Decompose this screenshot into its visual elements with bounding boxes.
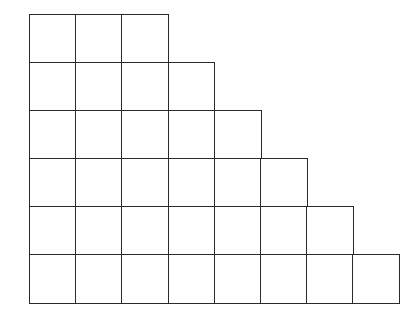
grid-cell	[168, 158, 216, 208]
grid-cell	[121, 62, 169, 112]
grid-cell	[214, 206, 262, 256]
grid-cell	[260, 158, 308, 208]
staircase-grid-diagram	[0, 0, 415, 313]
grid-cell	[214, 158, 262, 208]
grid-cell	[75, 254, 123, 304]
grid-cell	[260, 206, 308, 256]
grid-cell	[29, 158, 77, 208]
grid-cell	[121, 254, 169, 304]
grid-cell	[121, 206, 169, 256]
grid-cell	[168, 110, 216, 160]
grid-cell	[29, 14, 77, 64]
grid-cell	[121, 14, 169, 64]
grid-cell	[75, 62, 123, 112]
grid-cell	[121, 158, 169, 208]
grid-cell	[29, 254, 77, 304]
grid-cell	[168, 62, 216, 112]
grid-cell	[214, 254, 262, 304]
grid-cell	[29, 62, 77, 112]
grid-cell	[168, 254, 216, 304]
grid-cell	[260, 254, 308, 304]
grid-cell	[75, 110, 123, 160]
grid-cell	[214, 110, 262, 160]
grid-cell	[75, 14, 123, 64]
grid-cell	[29, 110, 77, 160]
grid-cell	[29, 206, 77, 256]
grid-cell	[75, 158, 123, 208]
grid-cell	[306, 254, 354, 304]
grid-cell	[306, 206, 354, 256]
grid-cell	[121, 110, 169, 160]
grid-cell	[168, 206, 216, 256]
grid-cell	[352, 254, 400, 304]
grid-cell	[75, 206, 123, 256]
